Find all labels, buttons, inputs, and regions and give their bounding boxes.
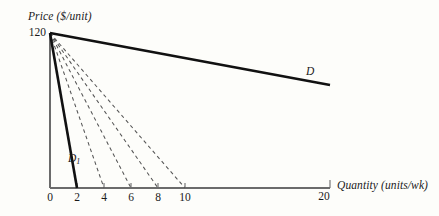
dashed-ray-q4	[50, 33, 104, 188]
demand-curve-d1	[50, 33, 77, 188]
dashed-ray-q10	[50, 33, 185, 188]
demand-curve-d	[50, 33, 330, 85]
dashed-ray-q6	[50, 33, 131, 188]
chart-plot-area	[0, 0, 439, 216]
dashed-demand-rays	[50, 33, 185, 188]
dashed-ray-q8	[50, 33, 158, 188]
demand-curve-figure: Price ($/unit) 120 0 2 4 6 8 10 20 Quant…	[0, 0, 439, 216]
x-axis-tick-marks	[50, 180, 330, 188]
